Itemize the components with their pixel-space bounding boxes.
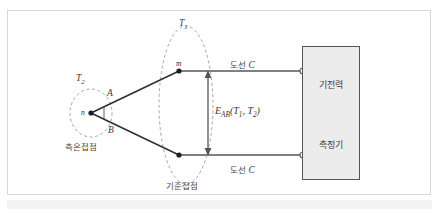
label-measuring-junction: 측온접점 [65, 143, 97, 152]
junction-point-m-dot [176, 68, 181, 73]
emf-measuring-instrument-box [302, 46, 360, 180]
label-reference-junction: 기준접점 [166, 182, 198, 191]
junction-point-lower-dot [176, 152, 181, 157]
label-junction-m-text: m [176, 59, 181, 68]
label-junction-n-text: n [81, 108, 85, 117]
label-reference-junction-text: 기준접점 [166, 181, 198, 191]
label-t1-subscript: 1 [184, 23, 187, 30]
instrument-label-meter-text: 측정기 [319, 140, 343, 150]
label-lead-wire-lower-symbol: C [248, 165, 254, 175]
instrument-label-emf-text: 기전력 [319, 80, 343, 90]
label-lead-wire-upper: 도선 C [230, 55, 255, 71]
label-measuring-junction-text: 측온접점 [65, 142, 97, 152]
label-lead-wire-upper-text: 도선 [230, 60, 246, 70]
bottom-band [7, 200, 432, 209]
label-temperature-t1: T1 [179, 19, 188, 31]
label-junction-n: n [81, 109, 85, 117]
label-temperature-t2: T2 [76, 74, 85, 86]
junction-point-n-dot [88, 110, 93, 115]
label-emf-paren-close: ) [257, 105, 260, 116]
label-emf-subscript: AB [221, 111, 230, 119]
label-lead-wire-lower: 도선 C [230, 160, 255, 176]
label-emf-expression: EAB(T1, T2) [215, 106, 260, 119]
label-junction-m: m [176, 60, 181, 68]
label-conductor-a-text: A [107, 88, 113, 98]
label-conductor-b: B [108, 126, 114, 136]
instrument-label-emf: 기전력 [302, 78, 360, 91]
instrument-label-meter: 측정기 [302, 138, 360, 151]
label-conductor-a: A [107, 89, 113, 99]
label-lead-wire-lower-text: 도선 [230, 165, 246, 175]
label-lead-wire-upper-symbol: C [248, 60, 254, 70]
figure-root: 기전력 측정기 T2 T1 A B n m 측온접점 기준접점 도선 C 도선 … [0, 0, 439, 220]
label-conductor-b-text: B [108, 125, 114, 135]
label-emf-comma: , [242, 105, 245, 116]
reference-junction-dashed-ellipse [159, 26, 213, 184]
label-t2-subscript: 2 [81, 78, 84, 85]
